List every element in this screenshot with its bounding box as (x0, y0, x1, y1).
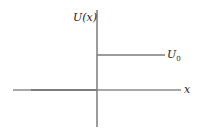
step-potential-diagram: U(x) x U0 (0, 0, 200, 131)
step-label: U0 (167, 48, 181, 63)
step-label-subscript: 0 (176, 55, 180, 63)
y-axis-label: U(x) (73, 11, 97, 24)
x-axis-label: x (184, 83, 191, 96)
